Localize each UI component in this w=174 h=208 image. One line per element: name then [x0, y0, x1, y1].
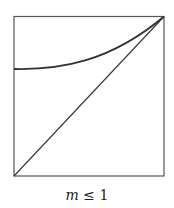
- diagram: [0, 0, 174, 208]
- convex-curve: [14, 17, 164, 70]
- caption: m ≤ 1: [0, 187, 174, 203]
- caption-variable: m: [66, 187, 79, 203]
- caption-relation: ≤ 1: [79, 187, 109, 203]
- diagonal-line: [14, 17, 164, 177]
